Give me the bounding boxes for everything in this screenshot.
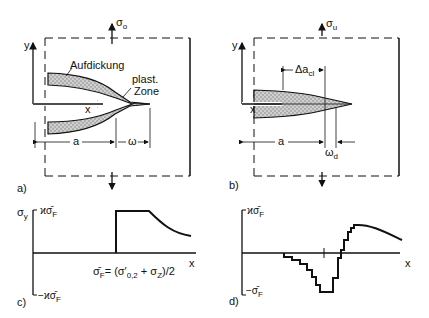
bottom-tick-label: −ϰσ̄F xyxy=(38,290,61,302)
plastic-zone-annotation-line1: plast. xyxy=(132,74,158,85)
x-axis-label: x xyxy=(189,258,195,269)
y-axis-label: y xyxy=(24,40,30,51)
dimension-omega-d-label: ωd xyxy=(325,147,338,159)
panel-c xyxy=(33,210,196,295)
panel-c-label: c) xyxy=(17,297,26,308)
diagram-canvas xyxy=(0,0,429,318)
bottom-tick-label: −σ̄F xyxy=(246,285,263,297)
lower-crack-flank xyxy=(48,103,150,134)
top-tick-label: ϰσ̄F xyxy=(40,205,57,217)
formula-label: σ̄F= (σ′0,2 + σZ)/2 xyxy=(93,266,175,278)
x-axis-label: x xyxy=(85,104,91,115)
residual-stress-curve xyxy=(284,225,402,292)
panel-a-label: a) xyxy=(17,183,27,194)
dimension-delta-a-label: Δacl xyxy=(295,64,314,76)
thickening-annotation: Aufdickung xyxy=(70,60,124,71)
dimension-a-label: a xyxy=(278,136,284,147)
panel-d-label: d) xyxy=(229,296,239,307)
stress-label-top: σo xyxy=(116,17,127,29)
panel-d xyxy=(242,210,402,295)
panel-b xyxy=(242,24,399,186)
x-axis-label: x xyxy=(250,104,256,115)
x-axis-label: x xyxy=(405,258,411,269)
y-axis-label: σy xyxy=(17,207,28,219)
top-tick-label: ϰσ̄F xyxy=(247,205,264,217)
panel-b-label: b) xyxy=(229,180,239,191)
plastic-zone-annotation-line2: Zone xyxy=(134,86,159,97)
dimension-omega-label: ω xyxy=(128,136,137,147)
dimension-a-label: a xyxy=(73,136,79,147)
stress-label-top: σu xyxy=(326,18,337,30)
stress-curve xyxy=(116,211,191,253)
panel-a xyxy=(33,24,190,189)
y-axis-label: y xyxy=(232,40,238,51)
